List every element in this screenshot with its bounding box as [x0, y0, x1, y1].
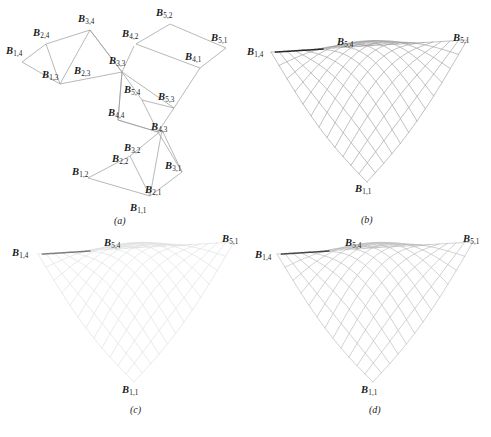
label-b52: B5,2 [156, 8, 172, 21]
label-b24: B2,4 [33, 28, 49, 41]
label-b42: B4,2 [122, 29, 138, 42]
label-b14: B1,4 [6, 46, 22, 59]
label-b11: B1,1 [130, 203, 146, 216]
panel-c-surface: B1,4 B5,4 B5,1 B1,1 (c) [0, 230, 246, 437]
iso-v-curve [279, 45, 374, 66]
iso-u-curve [324, 248, 423, 322]
label-b22: B2,2 [112, 154, 128, 167]
iso-v-curve [325, 244, 422, 328]
label-b23: B2,3 [74, 66, 90, 79]
surface-highlight-ridge [42, 251, 91, 254]
surface-mesh-c-svg [0, 230, 246, 437]
label-b21: B2,1 [145, 185, 161, 198]
label-c-b54: B5,4 [104, 238, 120, 251]
iso-v-curve [343, 42, 442, 157]
label-d-b14: B1,4 [255, 250, 271, 263]
iso-u-curve [293, 253, 390, 364]
iso-v-curve [349, 244, 448, 358]
label-b53: B5,3 [158, 92, 174, 105]
label-b51: B5,1 [211, 33, 227, 46]
label-b33: B3,3 [109, 56, 125, 69]
iso-v-curve [333, 245, 431, 339]
panel-a-control-net: B3,4 B2,4 B1,4 B1,3 B2,3 B3,3 B5,2 B4,2 … [0, 0, 246, 230]
iso-u-curve [62, 253, 160, 355]
panel-d-surface: B1,4 B5,4 B5,1 B1,1 (d) [245, 230, 491, 437]
label-b-b54: B5,4 [337, 37, 353, 50]
caption-panel-b: (b) [361, 214, 373, 225]
label-b34: B3,4 [78, 14, 94, 27]
surface-mesh-d-svg [245, 230, 491, 437]
label-b54: B5,4 [124, 85, 140, 98]
iso-v-curve [357, 243, 456, 366]
label-d-b11: B1,1 [361, 385, 377, 398]
label-b-b11: B1,1 [355, 184, 371, 197]
iso-v-curve [110, 244, 209, 358]
iso-v-curve [319, 42, 416, 127]
iso-u-curve [54, 253, 151, 364]
iso-v-curve [327, 43, 425, 138]
label-b-b51: B5,1 [453, 33, 469, 46]
surface-wireframe [271, 40, 467, 182]
iso-u-curve [302, 50, 400, 143]
label-d-b51: B5,1 [463, 234, 479, 247]
iso-v-curve [86, 244, 183, 328]
label-c-b51: B5,1 [222, 234, 238, 247]
surface-wireframe [38, 242, 234, 382]
iso-v-curve [126, 243, 226, 374]
iso-u-curve [310, 49, 409, 132]
label-c-b14: B1,4 [12, 248, 28, 261]
iso-u-curve [85, 248, 184, 322]
iso-v-curve [46, 247, 141, 267]
surface-highlight-ridge [275, 49, 324, 52]
iso-v-curve [365, 243, 465, 374]
iso-v-curve [94, 245, 192, 339]
label-b41: B4,1 [185, 52, 201, 65]
iso-v-curve [285, 247, 380, 267]
label-d-b54: B5,4 [345, 238, 361, 251]
caption-panel-a: (a) [114, 215, 126, 226]
net-cell-upper-right [136, 24, 226, 68]
label-c-b11: B1,1 [122, 385, 138, 398]
label-b31: B3,1 [165, 161, 181, 174]
label-b12: B1,2 [72, 167, 88, 180]
iso-u-curve [318, 46, 417, 121]
iso-u-curve [69, 252, 167, 344]
caption-panel-d: (d) [369, 404, 381, 415]
iso-u-curve [301, 253, 399, 355]
label-b43: B4,3 [151, 122, 167, 135]
iso-v-curve [118, 243, 217, 366]
surface-highlight-ridge [281, 251, 330, 254]
label-b44: B4,4 [108, 108, 124, 121]
surface-wireframe [277, 242, 473, 382]
iso-v-curve [351, 41, 450, 165]
panel-b-surface: B1,4 B5,4 B5,1 B1,1 (b) [245, 0, 491, 230]
label-b13: B1,3 [42, 70, 58, 83]
caption-panel-c: (c) [130, 404, 141, 415]
label-b-b14: B1,4 [247, 47, 263, 60]
iso-u-curve [308, 252, 406, 344]
